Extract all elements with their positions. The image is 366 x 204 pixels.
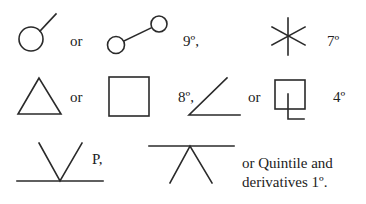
or-label: or <box>70 90 83 105</box>
or-label: or <box>248 90 261 105</box>
quintile-label-line1: or Quintile and <box>242 156 333 171</box>
square-icon <box>109 77 149 116</box>
inverted-v-under-line-icon <box>149 146 234 183</box>
angle-icon <box>189 78 240 115</box>
v-on-line-icon <box>17 143 103 181</box>
p-label: P, <box>92 152 102 167</box>
opposition-two-circles-icon <box>108 16 168 54</box>
quintile-label-line2: derivatives 1º. <box>242 175 327 190</box>
orb-label: 8º, <box>178 90 194 105</box>
orb-label: 7º <box>327 34 339 49</box>
or-label: or <box>70 34 83 49</box>
square-with-hook-icon <box>275 80 305 119</box>
asterisk-six-point-icon <box>272 18 305 55</box>
triangle-icon <box>18 78 61 114</box>
orb-label: 4º <box>333 90 345 105</box>
conjunction-circle-with-line-icon <box>19 14 56 51</box>
orb-label: 9º, <box>183 34 199 49</box>
